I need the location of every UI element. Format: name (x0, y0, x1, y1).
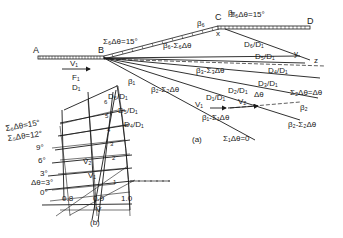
inflow-froude: F₁ (72, 73, 80, 82)
point-y-label: y (294, 49, 298, 58)
point-b-label: B (98, 45, 104, 55)
betax-label: βₓ (228, 8, 236, 17)
point-a-label: A (33, 45, 39, 55)
b-depth-d5: D₅/D₁ (118, 106, 138, 115)
beta1-minus-label: β₁-Σ₁Δθ (202, 113, 230, 122)
caption-a: (a) (192, 135, 202, 144)
part-a-flow-diagram: A B C D x y z V₁ F₁ D₁ Σ₆Δθ=15° Σ₆Δθ=15°… (33, 8, 325, 144)
point-x-label: x (216, 29, 220, 38)
point-z-label: z (314, 56, 318, 65)
point-c-label: C (215, 12, 222, 22)
angle-label-3: 3° (40, 169, 48, 178)
v2-arrow (228, 106, 258, 108)
b-depth-d6: D₆/D₁ (108, 92, 128, 101)
depth-d3: D₃/D₁ (258, 79, 278, 88)
sum1-label: Σ₁Δθ=0 (223, 134, 250, 143)
wall-angle-label: Σ₆Δθ=15° (103, 37, 138, 46)
beta2-minus-label: β₂-Σ₂Δθ (151, 85, 180, 94)
dtheta-label: Δθ (254, 90, 264, 99)
part-b-labels: D₆/D₁ D₅/D₁ D₄/D₁ Σ₆Δθ=15° Σ₅Δθ=12° 9° 6… (5, 92, 144, 227)
beta2-label: β₂ (300, 103, 308, 112)
caption-b: (b) (90, 218, 100, 227)
depth-d1: D₁/D₁ (206, 93, 225, 102)
oblique-jump-diagram: A B C D x y z V₁ F₁ D₁ Σ₆Δθ=15° Σ₆Δθ=15°… (0, 0, 343, 238)
beta1-label: β₁ (128, 77, 136, 86)
depth-d4: D₄/D₁ (268, 66, 288, 75)
angle-label-dtheta: Δθ=3° (31, 178, 53, 187)
sum2-label: Σ₂Δθ=Δθ (290, 88, 323, 97)
beta3-minus-label: β₃-Σ₃Δθ (196, 66, 225, 75)
v2-label: V₂ (238, 97, 246, 106)
inflow-depth: D₁ (72, 83, 81, 92)
vbar1-label: V̄₁ (88, 171, 96, 180)
depth-d6: D₆/D₁ (244, 40, 264, 49)
region-2: 2 (112, 155, 116, 161)
angle-label-6: 6° (38, 156, 46, 165)
beta6-minus-label: β₆-Σ₆Δθ (163, 41, 192, 50)
angle-label-9: 9° (36, 143, 44, 152)
x-tick-1.0: 1.0 (121, 194, 133, 203)
beta6-label: β₆ (197, 19, 205, 28)
region-1: 1 (113, 179, 117, 185)
angle-label-0: 0° (40, 188, 48, 197)
depth-d5: D₅/D₁ (255, 52, 275, 61)
vbar2-label: V̄₂ (83, 157, 91, 166)
wall-cd (218, 26, 310, 29)
depth-d2: D₂/D₁ (228, 86, 248, 95)
b-depth-d4: D₄/D₁ (124, 120, 144, 129)
x-tick-0.9: 0.9 (93, 194, 105, 203)
x-axis-label: V̄ (96, 205, 102, 214)
v1-label: V₁ (195, 100, 203, 109)
region-5: 5 (105, 113, 109, 119)
beta2-minus-b-label: β₂-Σ₂Δθ (288, 120, 317, 129)
point-d-label: D (307, 16, 314, 26)
inflow-velocity: V₁ (70, 59, 78, 68)
x-tick-0.8: 0.8 (62, 194, 74, 203)
